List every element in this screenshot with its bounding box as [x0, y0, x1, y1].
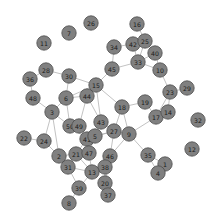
graph-node[interactable]: 34 [107, 40, 121, 54]
graph-node-circle[interactable] [72, 119, 86, 133]
graph-node-circle[interactable] [138, 34, 152, 48]
graph-node[interactable]: 33 [131, 55, 145, 69]
graph-node[interactable]: 45 [105, 62, 119, 76]
graph-node-circle[interactable] [98, 160, 112, 174]
graph-node[interactable]: 25 [138, 34, 152, 48]
graph-node[interactable]: 37 [101, 188, 115, 202]
graph-node[interactable]: 39 [72, 181, 86, 195]
graph-node-circle[interactable] [88, 129, 102, 143]
graph-node-circle[interactable] [101, 188, 115, 202]
graph-node-circle[interactable] [107, 40, 121, 54]
graph-node[interactable]: 3 [45, 105, 59, 119]
graph-node[interactable]: 35 [141, 148, 155, 162]
graph-node[interactable]: 13 [85, 165, 99, 179]
graph-node-circle[interactable] [141, 148, 155, 162]
graph-node[interactable]: 11 [37, 36, 51, 50]
graph-node-circle[interactable] [180, 81, 194, 95]
network-graph-figure: 1172616344225403345102329283630154864418… [0, 0, 218, 223]
graph-node[interactable]: 10 [153, 63, 167, 77]
graph-node-circle[interactable] [62, 196, 76, 210]
graph-node[interactable]: 27 [107, 124, 121, 138]
graph-node-circle[interactable] [62, 69, 76, 83]
graph-node[interactable]: 16 [130, 17, 144, 31]
graph-node-circle[interactable] [115, 100, 129, 114]
graph-node-circle[interactable] [185, 142, 199, 156]
graph-node[interactable]: 31 [61, 160, 75, 174]
graph-node-circle[interactable] [59, 91, 73, 105]
graph-node-circle[interactable] [161, 105, 175, 119]
graph-node-circle[interactable] [130, 17, 144, 31]
graph-node[interactable]: 22 [17, 131, 31, 145]
graph-node-circle[interactable] [85, 165, 99, 179]
graph-canvas: 1172616344225403345102329283630154864418… [0, 0, 218, 223]
graph-node[interactable]: 9 [122, 127, 136, 141]
graph-node-circle[interactable] [153, 63, 167, 77]
graph-node-circle[interactable] [131, 55, 145, 69]
graph-node[interactable]: 21 [69, 147, 83, 161]
graph-node-circle[interactable] [17, 131, 31, 145]
graph-node[interactable]: 44 [80, 89, 94, 103]
graph-node-circle[interactable] [138, 95, 152, 109]
graph-node[interactable]: 6 [59, 91, 73, 105]
graph-node-circle[interactable] [72, 181, 86, 195]
graph-node-circle[interactable] [122, 127, 136, 141]
graph-node[interactable]: 8 [62, 196, 76, 210]
graph-node-circle[interactable] [37, 36, 51, 50]
graph-node-circle[interactable] [62, 26, 76, 40]
graph-node[interactable]: 36 [23, 72, 37, 86]
graph-node-circle[interactable] [151, 166, 165, 180]
graph-node-circle[interactable] [107, 124, 121, 138]
graph-node-circle[interactable] [94, 115, 108, 129]
graph-node[interactable]: 12 [185, 142, 199, 156]
graph-node[interactable]: 40 [148, 46, 162, 60]
graph-node[interactable]: 19 [138, 95, 152, 109]
graph-node[interactable]: 5 [88, 129, 102, 143]
graph-node-circle[interactable] [45, 105, 59, 119]
graph-node-circle[interactable] [148, 46, 162, 60]
graph-node-circle[interactable] [26, 91, 40, 105]
graph-node-circle[interactable] [37, 134, 51, 148]
graph-node[interactable]: 48 [26, 91, 40, 105]
graph-node[interactable]: 7 [62, 26, 76, 40]
graph-node[interactable]: 38 [98, 160, 112, 174]
graph-node[interactable]: 4 [151, 166, 165, 180]
graph-node[interactable]: 26 [84, 16, 98, 30]
graph-node-circle[interactable] [69, 147, 83, 161]
graph-node-circle[interactable] [163, 85, 177, 99]
graph-node[interactable]: 28 [39, 63, 53, 77]
node-layer: 1172616344225403345102329283630154864418… [17, 16, 205, 210]
graph-node[interactable]: 18 [115, 100, 129, 114]
graph-node[interactable]: 24 [37, 134, 51, 148]
graph-node-circle[interactable] [191, 113, 205, 127]
graph-node[interactable]: 30 [62, 69, 76, 83]
graph-node-circle[interactable] [105, 62, 119, 76]
graph-node[interactable]: 29 [180, 81, 194, 95]
graph-node-circle[interactable] [23, 72, 37, 86]
graph-node[interactable]: 23 [163, 85, 177, 99]
graph-node[interactable]: 14 [161, 105, 175, 119]
graph-node-circle[interactable] [80, 89, 94, 103]
graph-node-circle[interactable] [82, 146, 96, 160]
graph-node-circle[interactable] [61, 160, 75, 174]
graph-node-circle[interactable] [39, 63, 53, 77]
graph-node[interactable]: 32 [191, 113, 205, 127]
graph-node[interactable]: 47 [82, 146, 96, 160]
graph-node[interactable]: 49 [72, 119, 86, 133]
graph-node[interactable]: 43 [94, 115, 108, 129]
graph-node-circle[interactable] [84, 16, 98, 30]
